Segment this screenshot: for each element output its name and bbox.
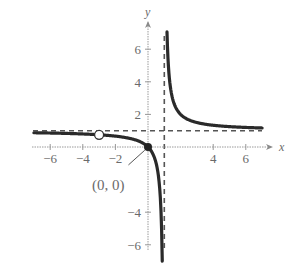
x-tick-label: −2	[108, 151, 122, 166]
y-axis-label: y	[144, 5, 151, 19]
open-point-hole	[95, 130, 104, 139]
y-tick-label: −4	[127, 205, 141, 220]
closed-point-origin	[144, 143, 152, 151]
x-tick-label: 6	[243, 151, 250, 166]
rational-function-graph: −6−4−246642−4−6 x y (0, 0)	[0, 0, 293, 277]
y-tick-label: −6	[127, 238, 141, 253]
y-tick-label: 2	[135, 107, 142, 122]
point-label-origin: (0, 0)	[92, 177, 125, 194]
y-tick-label: 4	[135, 75, 142, 90]
annotation-leader	[128, 150, 144, 165]
y-tick-label: 6	[135, 42, 142, 57]
x-tick-label: −6	[43, 151, 57, 166]
x-axis-label: x	[278, 140, 285, 154]
x-tick-label: 4	[210, 151, 217, 166]
curve-right-branch	[167, 32, 262, 128]
x-tick-label: −4	[76, 151, 90, 166]
